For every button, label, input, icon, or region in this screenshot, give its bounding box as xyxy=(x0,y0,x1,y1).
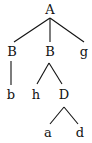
edge-B-D xyxy=(49,63,62,84)
nodes: A B B g b h D a d xyxy=(7,2,88,140)
node-d: d xyxy=(76,125,84,140)
edge-B-h xyxy=(37,63,49,84)
node-B-middle: B xyxy=(45,44,55,59)
node-A: A xyxy=(44,2,55,17)
node-D: D xyxy=(59,87,69,102)
edges xyxy=(11,18,84,124)
node-g: g xyxy=(80,44,88,59)
edge-D-a xyxy=(50,107,64,124)
node-b: b xyxy=(7,87,15,102)
node-B-left: B xyxy=(7,44,17,59)
node-a: a xyxy=(44,125,52,140)
edge-D-d xyxy=(64,107,78,124)
edge-A-B-left xyxy=(14,18,50,42)
tree-diagram: A B B g b h D a d xyxy=(0,0,92,143)
edge-A-g xyxy=(50,18,84,42)
node-h: h xyxy=(32,87,41,102)
